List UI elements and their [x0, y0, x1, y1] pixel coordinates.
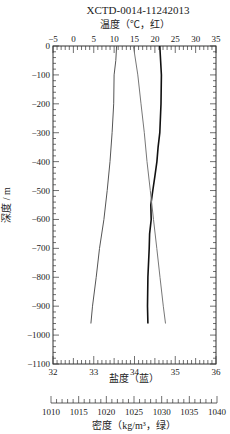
temperature-tick-label: 15 — [130, 34, 140, 44]
salinity-tick-label: 34 — [130, 367, 140, 377]
depth-axis-label: 深度 / m — [0, 187, 12, 223]
y-tick-label: −600 — [31, 214, 50, 224]
temperature-axis-label: 温度（℃，红） — [100, 18, 170, 30]
axis-ticks: 0−100−200−300−400−500−600−700−800−900−10… — [27, 34, 227, 417]
salinity-tick-label: 36 — [212, 367, 222, 377]
y-tick-label: −1000 — [27, 330, 51, 340]
y-tick-label: −500 — [31, 186, 50, 196]
salinity-tick-label: 35 — [171, 367, 181, 377]
temperature-curve — [91, 46, 117, 324]
temperature-tick-label: −5 — [48, 34, 58, 44]
y-tick-label: −100 — [31, 70, 50, 80]
density-tick-label: 1025 — [125, 407, 144, 417]
y-tick-label: −1100 — [27, 359, 50, 369]
plot-frame — [53, 46, 216, 364]
y-tick-label: −900 — [31, 301, 50, 311]
temperature-tick-label: 0 — [71, 34, 76, 44]
chart-title: XCTD-0014-11242013 — [87, 4, 190, 16]
temperature-tick-label: 10 — [110, 34, 120, 44]
xctd-profile-chart: XCTD-0014-11242013 温度（℃，红） 盐度（蓝） 密度（kg/m… — [0, 0, 230, 434]
temperature-tick-label: 20 — [150, 34, 160, 44]
data-curves — [91, 46, 166, 324]
density-tick-label: 1015 — [70, 407, 89, 417]
density-axis-label: 密度（kg/m³，绿） — [92, 419, 176, 431]
y-tick-label: −200 — [31, 99, 50, 109]
temperature-tick-label: 30 — [191, 34, 201, 44]
temperature-tick-label: 35 — [212, 34, 222, 44]
salinity-tick-label: 33 — [89, 367, 99, 377]
density-tick-label: 1040 — [208, 407, 227, 417]
density-tick-label: 1030 — [153, 407, 172, 417]
salinity-tick-label: 32 — [49, 367, 58, 377]
y-tick-label: −400 — [31, 157, 50, 167]
density-tick-label: 1010 — [42, 407, 61, 417]
y-tick-label: −700 — [31, 243, 50, 253]
density-tick-label: 1020 — [97, 407, 116, 417]
temperature-tick-label: 25 — [171, 34, 181, 44]
y-tick-label: −300 — [31, 128, 50, 138]
temperature-tick-label: 5 — [92, 34, 97, 44]
density-tick-label: 1035 — [180, 407, 199, 417]
y-tick-label: −800 — [31, 272, 50, 282]
